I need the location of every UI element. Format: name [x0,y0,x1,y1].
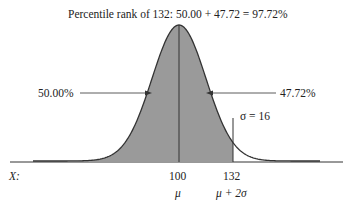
tick-mean-value: 100 [169,171,186,183]
left-area-label: 50.00% [38,88,73,100]
tick-mean-symbol: μ [175,188,181,200]
sigma-label: σ = 16 [240,111,270,123]
axis-label: X: [9,171,20,183]
title: Percentile rank of 132: 50.00 + 47.72 = … [68,9,288,21]
tick-cutoff-symbol: μ + 2σ [216,188,247,200]
right-area-label: 47.72% [280,88,315,100]
tick-cutoff-value: 132 [223,171,240,183]
